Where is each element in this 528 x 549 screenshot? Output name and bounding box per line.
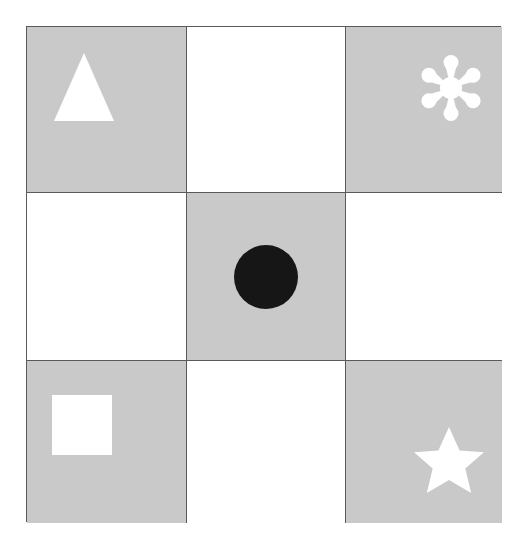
matrix-cell-row3-col3[interactable]	[346, 361, 502, 523]
shape-container	[27, 27, 186, 192]
shape-container	[346, 361, 502, 523]
matrix-figure: empty-cell	[0, 0, 528, 549]
shape-container	[346, 27, 502, 192]
flower-asterisk-icon	[418, 52, 484, 124]
matrix-cell-row3-col2[interactable]: empty-cell	[187, 361, 346, 523]
square-icon	[52, 395, 112, 455]
matrix-cell-row1-col3[interactable]	[346, 27, 502, 193]
circle-icon	[233, 244, 299, 310]
matrix-cell-row1-col2[interactable]: empty-cell	[187, 27, 346, 193]
matrix-cell-row1-col1[interactable]	[27, 27, 187, 193]
matrix-cell-row2-col3[interactable]: empty-cell	[346, 193, 502, 361]
matrix-cell-row2-col1[interactable]: empty-cell	[27, 193, 187, 361]
triangle-icon	[52, 51, 116, 123]
shape-container	[27, 361, 186, 523]
matrix-cell-row3-col1[interactable]	[27, 361, 187, 523]
shape-container	[187, 193, 345, 360]
star-icon	[414, 426, 484, 494]
matrix-grid: empty-cell	[26, 26, 501, 522]
matrix-cell-row2-col2[interactable]	[187, 193, 346, 361]
